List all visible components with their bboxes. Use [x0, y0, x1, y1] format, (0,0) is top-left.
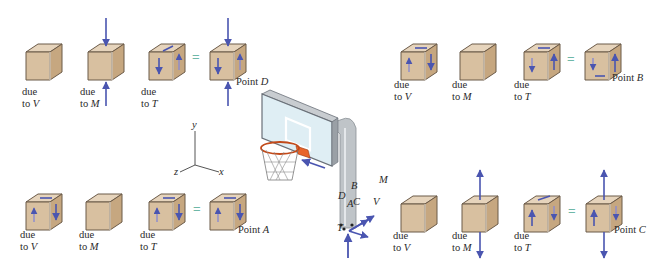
label-due-m: due to M: [80, 86, 100, 110]
point-b-label: Point B: [612, 72, 643, 83]
point-c-label: Point C: [614, 224, 646, 235]
shear-v-label: V: [373, 196, 379, 208]
label-due-v: due to V: [394, 79, 411, 103]
label-due-v: due to V: [393, 230, 410, 254]
label-due-m: due to M: [452, 79, 472, 103]
label-due-t: due to T: [514, 79, 531, 103]
label-due-v: due to V: [20, 229, 37, 253]
stress-cube-b-v: [397, 40, 441, 84]
axis-y-label: y: [192, 119, 197, 131]
equals-sign: =: [567, 51, 575, 66]
label-due-t: due to T: [514, 230, 531, 254]
stress-cube-a-v: [22, 190, 66, 234]
stress-cube-a-m: [82, 190, 126, 234]
axis-x-label: x: [219, 166, 224, 178]
equals-sign: =: [193, 201, 201, 216]
stress-cube-d-m: [84, 40, 128, 84]
hoop-point-c-label: C: [353, 196, 360, 208]
equals-sign: =: [568, 203, 576, 218]
label-due-v: due to V: [22, 86, 39, 110]
hoop-point-d-label: D: [338, 190, 346, 202]
label-due-m: due to M: [452, 230, 472, 254]
stress-cube-d-v: [22, 40, 66, 84]
label-due-t: due to T: [141, 86, 158, 110]
axis-z-label: z: [174, 166, 178, 178]
stress-cube-d-t: [145, 40, 189, 84]
basketball-hoop-illustration: [250, 88, 390, 258]
stress-cube-b-m: [456, 40, 500, 84]
hoop-point-b-label: B: [351, 180, 357, 192]
stress-cube-b-t: [520, 40, 564, 84]
equals-sign: =: [192, 49, 200, 64]
point-d-label: Point D: [236, 76, 268, 87]
torque-t-label: T: [337, 222, 343, 234]
moment-m-label: M: [379, 174, 388, 186]
label-due-m: due to M: [79, 229, 99, 253]
stress-cube-a-t: [145, 190, 189, 234]
label-due-t: due to T: [140, 229, 157, 253]
